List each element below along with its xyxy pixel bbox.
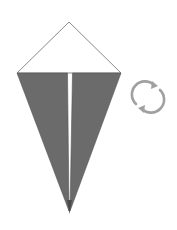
right-gray-flap: [70, 73, 121, 211]
turn-over-icon: [128, 78, 168, 116]
origami-diagram: [0, 0, 177, 230]
left-gray-flap: [17, 73, 69, 211]
top-white-triangle: [17, 22, 121, 73]
